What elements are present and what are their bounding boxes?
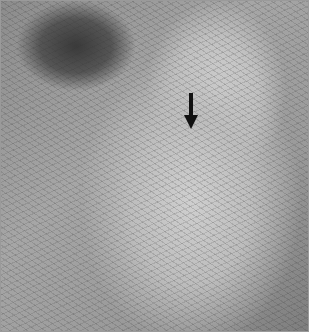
photo-texture	[1, 1, 308, 331]
clinical-photo	[0, 0, 309, 332]
arrow-down-icon	[184, 93, 198, 129]
